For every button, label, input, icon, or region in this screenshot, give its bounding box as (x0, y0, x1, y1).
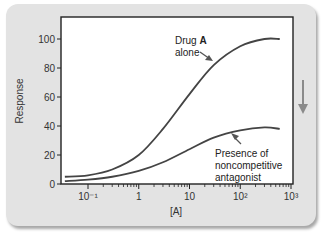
x-tick-label: 10 (184, 191, 196, 202)
y-tick-label: 0 (49, 179, 55, 190)
annotation-drug-a: Drug A (175, 35, 207, 46)
x-axis-ticks: 10⁻¹11010²10³ (78, 184, 299, 202)
x-tick-label: 1 (136, 191, 142, 202)
y-tick-label: 20 (44, 150, 56, 161)
y-tick-label: 100 (38, 34, 55, 45)
x-axis-title: [A] (170, 206, 182, 217)
x-tick-label: 10³ (284, 191, 299, 202)
x-tick-label: 10⁻¹ (78, 191, 98, 202)
annotation-drug-a-line2: alone (175, 47, 200, 58)
down-arrow-icon (298, 80, 308, 114)
dose-response-chart: 020406080100 10⁻¹11010²10³ Response [A] … (0, 0, 325, 236)
y-axis-title: Response (14, 78, 25, 123)
annotation-antagonist-line3: antagonist (215, 172, 261, 183)
y-tick-label: 40 (44, 121, 56, 132)
x-tick-label: 10² (233, 191, 248, 202)
y-tick-label: 80 (44, 63, 56, 74)
y-axis-ticks: 020406080100 (38, 34, 61, 190)
y-tick-label: 60 (44, 92, 56, 103)
annotation-antagonist-line2: noncompetitive (215, 160, 283, 171)
annotation-antagonist-line1: Presence of (215, 148, 269, 159)
